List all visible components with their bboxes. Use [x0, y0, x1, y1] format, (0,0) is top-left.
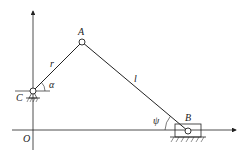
label-r: r: [50, 58, 54, 69]
label-alpha: α: [49, 79, 55, 90]
label-c: C: [16, 92, 23, 103]
slider-crank-diagram: A r α C O l ψ B: [0, 0, 244, 154]
label-o: O: [23, 133, 30, 144]
alpha-angle-arc: [42, 83, 46, 92]
label-l: l: [134, 73, 137, 84]
connecting-rod-l: [82, 42, 188, 131]
joint-b: [185, 128, 191, 134]
joint-c: [30, 88, 36, 94]
slider-ground: [170, 137, 206, 142]
crank-link-r: [33, 42, 82, 91]
label-b: B: [185, 112, 191, 123]
joint-a: [79, 39, 85, 45]
psi-angle-arc: [165, 116, 170, 130]
label-psi: ψ: [153, 115, 160, 126]
label-a: A: [77, 26, 85, 37]
